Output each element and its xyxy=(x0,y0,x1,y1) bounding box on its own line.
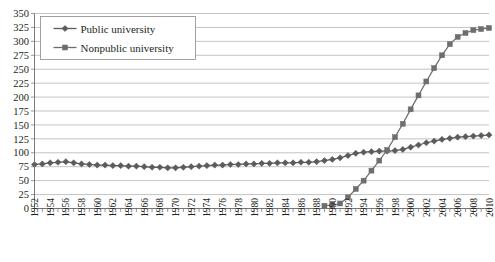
data-point-diamond xyxy=(165,165,171,171)
data-point-square xyxy=(353,187,358,192)
y-axis-label-325: 325 xyxy=(13,22,29,33)
x-axis-label-1972: 1972 xyxy=(187,198,197,217)
data-point-square xyxy=(369,168,374,173)
legend-label-0: Public university xyxy=(81,23,156,35)
x-axis-label-1952: 1952 xyxy=(30,198,40,217)
data-point-diamond xyxy=(345,152,351,158)
y-axis-label-200: 200 xyxy=(13,92,29,103)
chart-legend: Public universityNonpublic university xyxy=(41,17,196,60)
data-point-square xyxy=(439,53,444,58)
data-point-diamond xyxy=(180,164,186,170)
y-axis-label-350: 350 xyxy=(13,8,29,19)
data-point-diamond xyxy=(251,161,257,167)
data-point-diamond xyxy=(172,165,178,171)
data-point-diamond xyxy=(55,159,61,165)
data-point-diamond xyxy=(478,132,484,138)
data-point-diamond xyxy=(259,160,265,166)
data-point-diamond xyxy=(149,164,155,170)
x-axis-label-1982: 1982 xyxy=(265,198,275,217)
data-point-diamond xyxy=(439,136,445,142)
data-point-diamond xyxy=(274,160,280,166)
data-point-diamond xyxy=(118,163,124,169)
x-axis-label-1954: 1954 xyxy=(46,198,56,217)
data-point-diamond xyxy=(361,149,367,155)
data-point-square xyxy=(400,121,405,126)
data-point-diamond xyxy=(290,160,296,166)
chart-container: 0255075100125150175200225250275300325350… xyxy=(0,0,495,262)
x-axis-label-1988: 1988 xyxy=(312,198,322,217)
data-point-diamond xyxy=(415,142,421,148)
x-axis-label-1990: 1990 xyxy=(328,198,338,217)
y-axis-label-25: 25 xyxy=(19,189,30,200)
data-point-diamond xyxy=(298,159,304,165)
x-axis-label-1970: 1970 xyxy=(171,198,181,217)
data-point-diamond xyxy=(110,163,116,169)
y-axis-label-250: 250 xyxy=(13,64,29,75)
y-axis-label-225: 225 xyxy=(13,78,29,89)
data-point-diamond xyxy=(266,160,272,166)
x-axis-label-2010: 2010 xyxy=(485,198,495,217)
data-point-diamond xyxy=(321,157,327,163)
data-point-diamond xyxy=(314,159,320,165)
x-axis-label-2000: 2000 xyxy=(406,198,416,217)
data-point-diamond xyxy=(71,160,77,166)
data-point-square xyxy=(432,66,437,71)
data-point-diamond xyxy=(188,164,194,170)
x-axis-label-1958: 1958 xyxy=(77,198,87,217)
data-point-diamond xyxy=(219,162,225,168)
x-axis-label-2004: 2004 xyxy=(438,198,448,217)
data-point-diamond xyxy=(337,155,343,161)
x-axis-label-1994: 1994 xyxy=(359,198,369,217)
data-point-diamond xyxy=(353,150,359,156)
x-axis-label-1986: 1986 xyxy=(297,198,307,217)
y-axis-label-150: 150 xyxy=(13,120,29,131)
x-axis-label-1976: 1976 xyxy=(218,198,228,217)
legend-label-1: Nonpublic university xyxy=(81,42,175,54)
x-axis-label-2008: 2008 xyxy=(469,198,479,217)
series-public-university xyxy=(31,132,492,171)
data-point-diamond xyxy=(141,164,147,170)
x-axis-label-1984: 1984 xyxy=(281,198,291,217)
x-axis-label-1960: 1960 xyxy=(93,198,103,217)
data-point-diamond xyxy=(329,156,335,162)
series-path-1 xyxy=(324,28,489,206)
data-point-square xyxy=(392,135,397,140)
data-point-diamond xyxy=(243,161,249,167)
data-point-diamond xyxy=(39,161,45,167)
data-point-diamond xyxy=(133,163,139,169)
data-point-diamond xyxy=(102,162,108,168)
line-chart: 0255075100125150175200225250275300325350… xyxy=(0,0,495,262)
data-point-square xyxy=(416,93,421,98)
y-axis-label-100: 100 xyxy=(13,147,29,158)
data-point-diamond xyxy=(94,162,100,168)
data-point-diamond xyxy=(455,134,461,140)
data-point-diamond xyxy=(63,159,69,165)
x-axis-label-2006: 2006 xyxy=(453,198,463,217)
data-point-square xyxy=(361,178,366,183)
y-axis-label-125: 125 xyxy=(13,134,29,145)
data-point-diamond xyxy=(470,133,476,139)
data-point-diamond xyxy=(423,140,429,146)
x-axis-label-1966: 1966 xyxy=(140,198,150,217)
data-point-diamond xyxy=(196,163,202,169)
y-axis-label-300: 300 xyxy=(13,36,29,47)
x-axis-label-2002: 2002 xyxy=(422,198,432,217)
data-point-square xyxy=(471,28,476,33)
data-point-square xyxy=(487,25,492,30)
data-point-square xyxy=(377,158,382,163)
data-point-diamond xyxy=(204,163,210,169)
data-point-square xyxy=(408,107,413,112)
data-point-square xyxy=(385,148,390,153)
data-point-diamond xyxy=(157,164,163,170)
x-axis-label-1964: 1964 xyxy=(124,198,134,217)
data-point-diamond xyxy=(212,162,218,168)
data-point-diamond xyxy=(78,161,84,167)
data-point-square xyxy=(455,34,460,39)
data-point-diamond xyxy=(306,159,312,165)
data-point-square xyxy=(463,31,468,36)
data-point-square xyxy=(424,79,429,84)
data-point-diamond xyxy=(368,149,374,155)
x-axis-label-1962: 1962 xyxy=(108,198,118,217)
y-axis-label-275: 275 xyxy=(13,50,29,61)
x-axis-label-1978: 1978 xyxy=(234,198,244,217)
